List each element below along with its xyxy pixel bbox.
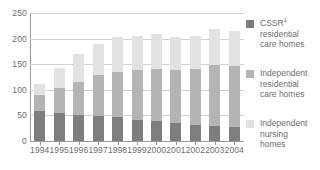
bar-segment[interactable] (151, 34, 162, 69)
bar-group[interactable] (229, 13, 240, 141)
y-axis: 050100150200250 (0, 13, 27, 141)
bar-segment[interactable] (190, 125, 201, 141)
bar-segment[interactable] (132, 70, 143, 119)
x-tick-label: 1994 (30, 146, 49, 155)
x-axis: 1994199519961997199819992000200120022003… (30, 142, 244, 158)
y-tick-label: 200 (1, 35, 27, 44)
bar-segment[interactable] (151, 69, 162, 121)
legend-footnote-marker: 1 (284, 17, 287, 23)
bars-layer (30, 13, 244, 141)
legend-label: Independentnursinghomes (260, 118, 320, 150)
bar-group[interactable] (112, 13, 123, 141)
plot-area (30, 13, 244, 141)
y-tick-label: 150 (1, 60, 27, 69)
bar-segment[interactable] (54, 68, 65, 88)
bar-segment[interactable] (112, 117, 123, 141)
y-tick-label: 0 (1, 137, 27, 146)
legend-swatch (246, 20, 254, 28)
bar-segment[interactable] (112, 72, 123, 118)
bar-group[interactable] (190, 13, 201, 141)
bar-segment[interactable] (229, 66, 240, 127)
bar-segment[interactable] (93, 116, 104, 141)
stacked-bar-chart: 050100150200250 199419951996199719981999… (0, 0, 320, 170)
x-tick-label: 1996 (69, 146, 88, 155)
x-tick-label: 2002 (186, 146, 205, 155)
bar-segment[interactable] (190, 69, 201, 125)
bar-group[interactable] (151, 13, 162, 141)
bar-group[interactable] (209, 13, 220, 141)
legend-swatch (246, 120, 254, 128)
legend-swatch (246, 70, 254, 78)
bar-segment[interactable] (34, 111, 45, 141)
bar-segment[interactable] (73, 82, 84, 115)
bar-segment[interactable] (34, 95, 45, 110)
x-tick-label: 1998 (108, 146, 127, 155)
bar-segment[interactable] (112, 37, 123, 72)
bar-segment[interactable] (132, 120, 143, 142)
bar-group[interactable] (73, 13, 84, 141)
bar-segment[interactable] (151, 121, 162, 141)
bar-segment[interactable] (73, 115, 84, 141)
bar-segment[interactable] (209, 29, 220, 65)
bar-segment[interactable] (34, 84, 45, 96)
bar-segment[interactable] (170, 37, 181, 70)
legend-label: CSSR1residentialcare homes (260, 18, 320, 50)
bar-group[interactable] (132, 13, 143, 141)
bar-group[interactable] (34, 13, 45, 141)
x-tick-label: 2004 (225, 146, 244, 155)
bar-segment[interactable] (170, 70, 181, 123)
bar-segment[interactable] (209, 65, 220, 126)
bar-segment[interactable] (54, 113, 65, 141)
y-tick-label: 250 (1, 9, 27, 18)
bar-group[interactable] (93, 13, 104, 141)
legend-label: Independentresidentialcare homes (260, 68, 320, 100)
x-tick-label: 2000 (147, 146, 166, 155)
bar-segment[interactable] (229, 31, 240, 66)
bar-segment[interactable] (93, 75, 104, 116)
bar-segment[interactable] (93, 44, 104, 75)
bar-segment[interactable] (73, 54, 84, 81)
x-tick-label: 1995 (49, 146, 68, 155)
bar-group[interactable] (54, 13, 65, 141)
bar-segment[interactable] (132, 36, 143, 70)
y-tick-label: 100 (1, 86, 27, 95)
bar-segment[interactable] (54, 88, 65, 113)
bar-segment[interactable] (209, 126, 220, 141)
x-tick-label: 2001 (166, 146, 185, 155)
bar-group[interactable] (170, 13, 181, 141)
x-tick-label: 1999 (127, 146, 146, 155)
x-tick-label: 1997 (88, 146, 107, 155)
bar-segment[interactable] (229, 127, 240, 141)
bar-segment[interactable] (170, 123, 181, 141)
x-tick-label: 2003 (205, 146, 224, 155)
y-tick-label: 50 (1, 111, 27, 120)
bar-segment[interactable] (190, 36, 201, 69)
